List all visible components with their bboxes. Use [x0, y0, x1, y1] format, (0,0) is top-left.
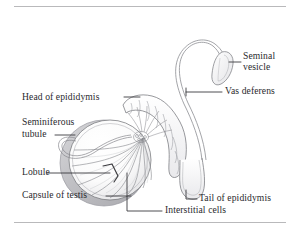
leader-vas-deferens — [186, 88, 222, 96]
label-interstitial-cells: Interstitial cells — [165, 205, 226, 216]
anatomy-figure: Head of epididymis Seminiferous tubule L… — [0, 0, 299, 236]
label-tail-of-epididymis: Tail of epididymis — [199, 193, 271, 204]
label-seminiferous-tubule-line1: Seminiferous — [22, 117, 74, 128]
seminal-vesicle-shape — [212, 52, 233, 85]
label-seminal-vesicle-line2: vesicle — [243, 62, 270, 73]
label-vas-deferens: Vas deferens — [225, 86, 275, 97]
label-capsule-of-testis: Capsule of testis — [22, 190, 87, 201]
label-seminiferous-tubule-line2: tubule — [22, 129, 47, 140]
label-head-of-epididymis: Head of epididymis — [22, 92, 99, 103]
label-lobule: Lobule — [22, 167, 50, 178]
label-seminal-vesicle-line1: Seminal — [243, 51, 275, 62]
